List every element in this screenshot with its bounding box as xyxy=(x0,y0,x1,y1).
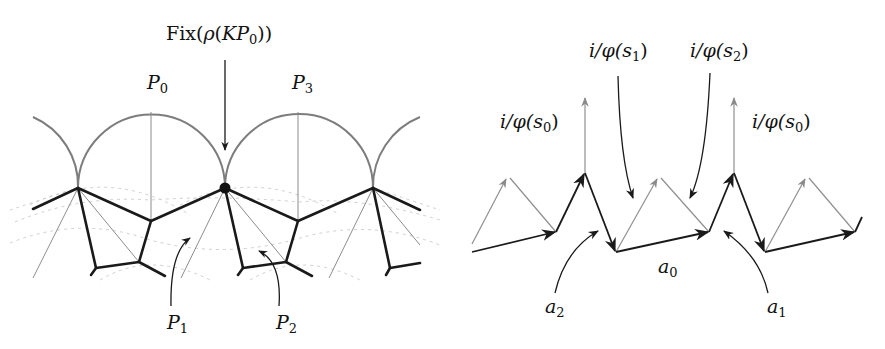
a1-pointer-arrow xyxy=(724,231,768,293)
label-i-phi-s0-left: i/φ(s0) xyxy=(500,112,559,131)
tiling-drawing xyxy=(0,0,445,349)
p1-pointer-arrow xyxy=(171,238,190,306)
label-i-phi-s0-right: i/φ(s0) xyxy=(752,112,811,131)
fix-label: Fix(ρ(KP0)) xyxy=(166,24,272,43)
p2-label: P2 xyxy=(276,313,297,332)
vector-drawing xyxy=(445,0,885,349)
left-panel-hyperbolic-tiling: Fix(ρ(KP0)) P0 P3 P1 P2 xyxy=(0,0,445,349)
p3-label: P3 xyxy=(292,73,313,92)
horocycle-arcs xyxy=(33,114,420,188)
label-a1: a1 xyxy=(767,297,787,316)
fixed-point-dot xyxy=(220,183,231,194)
label-i-phi-s1: i/φ(s1) xyxy=(589,41,648,60)
label-i-phi-s2: i/φ(s2) xyxy=(690,41,749,60)
p0-label: P0 xyxy=(147,73,168,92)
right-panel-vector-diagram: i/φ(s0) i/φ(s1) i/φ(s2) i/φ(s0) a0 a2 a1 xyxy=(445,0,885,349)
a2-pointer-arrow xyxy=(555,231,598,293)
vertical-gray-arrows xyxy=(585,98,734,173)
label-a2: a2 xyxy=(545,297,565,316)
label-a0: a0 xyxy=(658,257,678,276)
p2-pointer-arrow xyxy=(259,251,279,306)
p1-label: P1 xyxy=(167,313,188,332)
s2-pointer-arrow xyxy=(690,73,710,198)
s1-pointer-arrow xyxy=(618,76,633,198)
